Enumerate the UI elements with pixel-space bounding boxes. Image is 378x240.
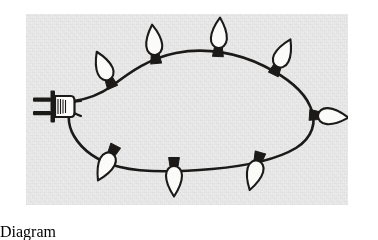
bulb-top-1 — [89, 48, 119, 90]
plug-face-plate — [51, 91, 56, 123]
plug-prong-bottom — [33, 111, 51, 115]
bulb-right — [309, 107, 348, 126]
bulb-bottom-3 — [242, 150, 268, 192]
bulb-bottom-2 — [166, 158, 182, 197]
drawing-panel — [26, 14, 348, 205]
image-canvas: String of holiday lights loop with plug … — [0, 0, 378, 223]
holiday-lights-illustration — [26, 14, 348, 205]
plug-assembly — [33, 91, 81, 123]
bulb-bottom-1 — [91, 142, 123, 184]
plug-prong-top — [33, 98, 51, 102]
bulb-top-4 — [266, 36, 297, 78]
